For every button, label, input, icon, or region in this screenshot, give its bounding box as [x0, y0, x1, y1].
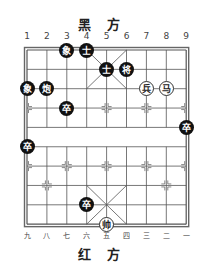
file-label: 三: [139, 230, 153, 240]
bottom-file-labels: 九八七六五四三二一: [0, 230, 204, 242]
black-piece[interactable]: 士: [79, 43, 94, 58]
file-label: 六: [80, 230, 94, 240]
piece-label: 卒: [82, 198, 91, 211]
piece-label: 士: [82, 44, 91, 57]
black-piece[interactable]: 卒: [59, 101, 74, 116]
piece-label: 卒: [23, 140, 32, 153]
file-label: 五: [100, 230, 114, 240]
piece-label: 兵: [142, 82, 151, 95]
file-label: 八: [40, 230, 54, 240]
file-label: 九: [20, 230, 34, 240]
piece-label: 帅: [102, 218, 111, 231]
piece-label: 象: [23, 82, 32, 95]
black-piece[interactable]: 卒: [20, 139, 35, 154]
piece-label: 卒: [182, 121, 191, 134]
black-piece[interactable]: 象: [20, 81, 35, 96]
file-label: 一: [179, 230, 193, 240]
black-piece[interactable]: 士: [99, 62, 114, 77]
piece-label: 将: [122, 63, 131, 76]
black-piece[interactable]: 象: [59, 43, 74, 58]
red-piece[interactable]: 兵: [139, 81, 154, 96]
black-piece[interactable]: 将: [119, 62, 134, 77]
red-piece[interactable]: 马: [159, 81, 174, 96]
piece-label: 炮: [42, 82, 51, 95]
file-label: 四: [120, 230, 134, 240]
piece-label: 马: [162, 82, 171, 95]
piece-label: 象: [62, 44, 71, 57]
file-label: 二: [159, 230, 173, 240]
file-label: 七: [60, 230, 74, 240]
piece-label: 士: [102, 63, 111, 76]
red-side-title: 红 方: [0, 244, 204, 263]
black-piece[interactable]: 卒: [179, 120, 194, 135]
piece-label: 卒: [62, 102, 71, 115]
